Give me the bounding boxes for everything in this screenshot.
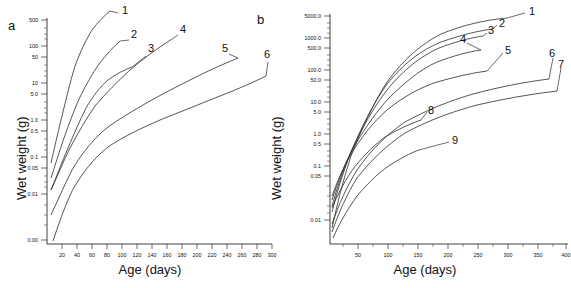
panel-a-curve-3 [51, 67, 132, 190]
panel-b-ytick-2: 500.0 [308, 45, 322, 51]
panel-a: a Wet weight (g) Age (days) [0, 0, 285, 288]
panel-b-xtick-5: 300 [504, 252, 513, 258]
panel-b-curve-4 [332, 50, 481, 200]
panel-a-xtick-13: 280 [253, 252, 262, 258]
panel-b-leader-9 [419, 142, 449, 150]
panel-b-leader-1 [507, 13, 525, 18]
panel-a-curvelabel-5: 5 [222, 42, 228, 54]
panel-b-letter: b [257, 12, 264, 27]
panel-a-curvelabel-3: 3 [148, 42, 154, 54]
panel-b-plot: 5000.0 1000.0 500.0 100.0 50.0 10.0 5.0 … [285, 0, 571, 288]
panel-a-curve-6 [53, 76, 266, 241]
panel-a-xtick-9: 200 [193, 252, 202, 258]
panel-b-leader-3 [483, 33, 487, 36]
panel-a-leader-5 [229, 54, 238, 58]
panel-b-leader-5 [487, 53, 503, 71]
panel-b-xtick-0: 50 [355, 252, 361, 258]
panel-a-ytick-4: 5.0 [31, 91, 39, 97]
panel-b-ytick-7: 1.0 [314, 131, 322, 137]
panel-b-ytick-10: 0.05 [311, 173, 322, 179]
panel-a-curvelabel-4: 4 [180, 23, 186, 35]
panel-b-curvelabel-1: 1 [529, 5, 535, 17]
panel-b-curvelabel-3: 3 [488, 24, 494, 36]
panel-b-y-minor-ticks [327, 23, 330, 213]
panel-b-leader-4 [467, 43, 481, 50]
panel-b-y-axis-title: Wet weight (g) [269, 116, 284, 200]
panel-a-ytick-9: 0.01 [28, 191, 39, 197]
panel-b-leader-7 [557, 68, 561, 91]
panel-a-xtick-8: 180 [178, 252, 187, 258]
panel-b-curvelabel-7: 7 [558, 58, 564, 70]
panel-b-xtick-3: 200 [444, 252, 453, 258]
panel-b-ytick-4: 50.0 [311, 77, 322, 83]
panel-a-leader-3 [132, 56, 146, 67]
panel-b-curvelabel-2: 2 [499, 17, 505, 29]
panel-a-xtick-14: 300 [268, 252, 277, 258]
panel-a-curvelabel-1: 1 [122, 4, 128, 16]
panel-a-ytick-3: 10 [32, 80, 38, 86]
panel-a-curve-4 [51, 39, 172, 190]
panel-b-ytick-1: 1000.0 [305, 35, 322, 41]
panel-b-curvelabel-8: 8 [428, 104, 434, 116]
panel-b-curvelabel-9: 9 [452, 134, 458, 146]
panel-a-xtick-4: 100 [118, 252, 127, 258]
panel-a-ytick-0: 500 [29, 17, 38, 23]
panel-a-xtick-0: 20 [59, 252, 65, 258]
panel-b-ytick-6: 5.0 [314, 109, 322, 115]
panel-a-ytick-1: 100 [29, 43, 38, 49]
panel-b-ytick-11: 0.01 [311, 217, 322, 223]
panel-a-xtick-6: 140 [148, 252, 157, 258]
panel-b-xtick-6: 350 [534, 252, 543, 258]
panel-a-leader-1 [110, 11, 118, 13]
panel-b-curvelabel-4: 4 [460, 33, 466, 45]
panel-a-xtick-12: 260 [238, 252, 247, 258]
panel-a-curvelabel-6: 6 [264, 48, 270, 60]
panel-a-ytick-6: 0.5 [31, 128, 39, 134]
panel-b-curvelabel-5: 5 [505, 44, 511, 56]
panel-a-curvelabel-2: 2 [131, 28, 137, 40]
panel-a-xtick-2: 60 [89, 252, 95, 258]
panel-a-leader-6 [266, 62, 268, 76]
panel-b-curve-5 [332, 71, 487, 196]
panel-b-xtick-1: 100 [384, 252, 393, 258]
panel-b-curve-6 [332, 79, 549, 224]
panel-a-ytick-8: 0.05 [28, 165, 39, 171]
panel-b-xtick-4: 250 [474, 252, 483, 258]
panel-b-ytick-0: 5000.0 [305, 13, 322, 19]
panel-a-xtick-11: 240 [223, 252, 232, 258]
panel-b-curvelabel-6: 6 [549, 47, 555, 59]
panel-b-xtick-2: 150 [414, 252, 423, 258]
panel-a-ytick-7: 0.1 [31, 154, 39, 160]
panel-b-ytick-5: 10.0 [311, 99, 322, 105]
panel-a-xtick-7: 160 [163, 252, 172, 258]
panel-a-xtick-1: 40 [74, 252, 80, 258]
panel-b-ytick-9: 0.1 [314, 163, 322, 169]
panel-a-leader-4 [172, 35, 178, 39]
panel-a-xtick-5: 120 [133, 252, 142, 258]
panel-a-curve-5 [51, 58, 238, 215]
panel-b-leader-6 [549, 58, 553, 79]
panel-a-xtick-10: 220 [208, 252, 217, 258]
panel-a-plot: 500 100 50 10 5.0 1.0 0.5 0.1 0.05 0.01 … [0, 0, 285, 288]
panel-b-curve-2 [332, 29, 493, 212]
panel-b-x-ticks [343, 244, 566, 249]
panel-a-ytick-10: 0.00 [28, 237, 39, 243]
panel-b-curve-7 [332, 91, 557, 232]
panel-b-xtick-7: 400 [562, 252, 571, 258]
panel-a-leader-2 [120, 40, 129, 41]
panel-b-y-ticks [324, 16, 330, 220]
panel-b-ytick-3: 100.0 [308, 67, 322, 73]
panel-b: b Wet weight (g) Age (days) [285, 0, 571, 288]
panel-a-ytick-5: 1.0 [31, 117, 39, 123]
panel-a-ytick-2: 50 [32, 54, 38, 60]
figure-container: a Wet weight (g) Age (days) [0, 0, 571, 288]
panel-a-y-ticks [41, 20, 47, 240]
panel-a-xtick-3: 80 [104, 252, 110, 258]
panel-a-x-ticks [62, 244, 272, 249]
panel-b-ytick-8: 0.5 [314, 141, 322, 147]
